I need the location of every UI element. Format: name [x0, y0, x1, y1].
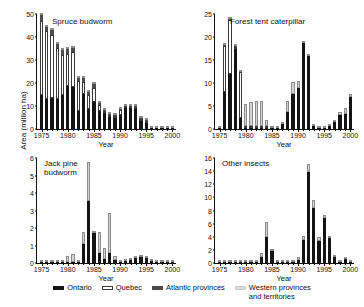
x-tick-label: 1975	[34, 132, 50, 139]
stacked-bar[interactable]	[338, 112, 341, 129]
stacked-bar[interactable]	[71, 46, 74, 129]
x-tick-mark	[256, 263, 257, 265]
stacked-bar[interactable]	[333, 120, 336, 129]
stacked-bar[interactable]	[66, 256, 69, 263]
stacked-bar[interactable]	[307, 54, 310, 129]
stacked-bar[interactable]	[234, 44, 237, 129]
stacked-bar[interactable]	[77, 76, 80, 129]
stacked-bar[interactable]	[260, 101, 263, 129]
stacked-bar[interactable]	[349, 94, 352, 129]
stacked-bar[interactable]	[286, 101, 289, 130]
stacked-bar[interactable]	[344, 108, 347, 129]
stacked-bar[interactable]	[134, 104, 137, 129]
stacked-bar[interactable]	[265, 120, 268, 129]
stacked-bar[interactable]	[108, 112, 111, 129]
bar-segment-on	[92, 102, 95, 129]
stacked-bar[interactable]	[307, 164, 310, 263]
stacked-bar[interactable]	[228, 17, 231, 129]
stacked-bar[interactable]	[87, 162, 90, 263]
stacked-bar[interactable]	[103, 248, 106, 263]
stacked-bar[interactable]	[323, 215, 326, 263]
stacked-bar[interactable]	[139, 255, 142, 263]
stacked-bar[interactable]	[312, 200, 315, 263]
stacked-bar[interactable]	[317, 237, 320, 263]
x-tick-label: 1975	[212, 266, 228, 273]
stacked-bar[interactable]	[61, 48, 64, 129]
legend-item-atlantic[interactable]: Atlantic provinces	[152, 284, 225, 293]
stacked-bar[interactable]	[255, 101, 258, 129]
x-tick-mark	[277, 263, 278, 265]
stacked-bar[interactable]	[239, 70, 242, 129]
stacked-bar[interactable]	[223, 43, 226, 129]
stacked-bar[interactable]	[265, 222, 268, 263]
stacked-bar[interactable]	[145, 256, 148, 263]
stacked-bar[interactable]	[333, 255, 336, 263]
x-axis-title-bottom-left: Year	[76, 274, 136, 283]
stacked-bar[interactable]	[113, 113, 116, 129]
stacked-bar[interactable]	[82, 76, 85, 130]
stacked-bar[interactable]	[302, 236, 305, 263]
stacked-bar[interactable]	[92, 231, 95, 263]
stacked-bar[interactable]	[98, 232, 101, 263]
stacked-bar[interactable]	[260, 253, 263, 263]
x-tick-mark	[89, 129, 90, 131]
bar-segment-on	[270, 251, 273, 263]
x-tick-mark	[293, 129, 294, 131]
stacked-bar[interactable]	[134, 256, 137, 263]
legend-item-western[interactable]: Western provinces and territories	[235, 284, 311, 301]
bar-segment-we	[291, 82, 294, 94]
bar-segment-on	[87, 201, 90, 263]
stacked-bar[interactable]	[139, 116, 142, 129]
bar-slot[interactable]	[348, 14, 353, 129]
stacked-bar[interactable]	[124, 104, 127, 129]
stacked-bar[interactable]	[113, 256, 116, 263]
stacked-bar[interactable]	[328, 236, 331, 263]
stacked-bar[interactable]	[87, 90, 90, 129]
bar-slot[interactable]	[170, 14, 175, 129]
bar-segment-on	[307, 172, 310, 263]
x-tick-mark	[329, 129, 330, 131]
bar-slot[interactable]	[170, 158, 175, 263]
stacked-bar[interactable]	[281, 122, 284, 129]
stacked-bar[interactable]	[297, 81, 300, 129]
stacked-bar[interactable]	[56, 42, 59, 129]
bar-segment-we	[249, 102, 252, 126]
stacked-bar[interactable]	[82, 232, 85, 263]
bar-segment-on	[286, 112, 289, 129]
legend-item-quebec[interactable]: Quebec	[102, 284, 142, 293]
x-tick-mark	[303, 129, 304, 131]
bar-segment-on	[40, 95, 43, 130]
stacked-bar[interactable]	[129, 104, 132, 129]
stacked-bar[interactable]	[119, 107, 122, 129]
x-tick-mark	[345, 263, 346, 265]
bar-segment-on	[333, 122, 336, 129]
bar-slot[interactable]	[348, 158, 353, 263]
stacked-bar[interactable]	[66, 47, 69, 129]
stacked-bar[interactable]	[270, 249, 273, 263]
bar-segment-on	[234, 49, 237, 130]
bar-segment-on	[265, 237, 268, 263]
stacked-bar[interactable]	[249, 102, 252, 129]
stacked-bar[interactable]	[291, 82, 294, 129]
stacked-bar[interactable]	[244, 104, 247, 129]
stacked-bar[interactable]	[302, 41, 305, 129]
stacked-bar[interactable]	[98, 101, 101, 129]
bar-segment-qc	[40, 21, 43, 95]
x-tick-mark	[162, 129, 163, 131]
stacked-bar[interactable]	[92, 82, 95, 129]
bar-segment-on	[87, 109, 90, 129]
stacked-bar[interactable]	[103, 108, 106, 129]
stacked-bar[interactable]	[108, 213, 111, 263]
bar-segment-qc	[223, 46, 226, 92]
stacked-bar[interactable]	[145, 118, 148, 129]
x-tick-label: 2000	[343, 132, 359, 139]
stacked-bar[interactable]	[45, 25, 48, 129]
stacked-bar[interactable]	[50, 28, 53, 129]
bar-group	[215, 158, 354, 263]
bar-segment-qc	[92, 88, 95, 102]
stacked-bar[interactable]	[71, 254, 74, 263]
legend-item-ontario[interactable]: Ontario	[53, 284, 92, 293]
x-tick-mark	[141, 263, 142, 265]
stacked-bar[interactable]	[40, 13, 43, 129]
x-tick-label: 1980	[60, 132, 76, 139]
